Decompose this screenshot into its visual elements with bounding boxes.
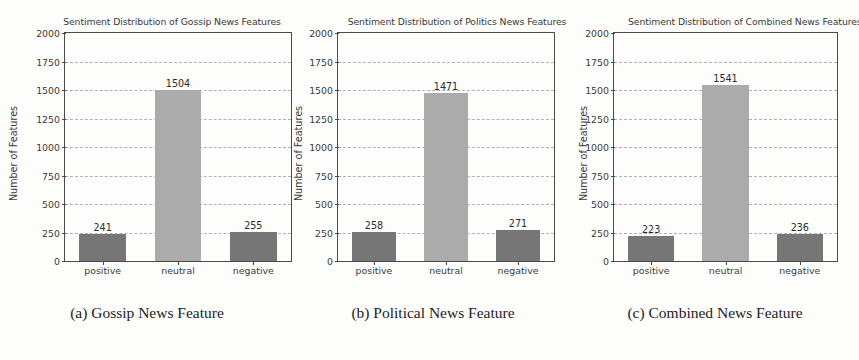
bar-value-label: 271 xyxy=(509,218,527,229)
plot-area: 025050075010001250150017502000258positiv… xyxy=(337,32,555,262)
y-tick-label: 1500 xyxy=(36,85,60,96)
x-tick-label-neutral: neutral xyxy=(709,265,743,276)
bar-negative: 271 xyxy=(496,230,541,261)
y-tick-mark xyxy=(611,176,615,177)
bar-value-label: 1504 xyxy=(166,78,190,89)
y-tick-mark xyxy=(335,62,339,63)
y-tick-label: 1500 xyxy=(309,85,333,96)
y-tick-mark xyxy=(62,33,66,34)
bar-neutral: 1541 xyxy=(702,85,748,261)
bar-neutral: 1504 xyxy=(155,90,202,261)
y-tick-label: 0 xyxy=(54,256,60,267)
bar-negative: 236 xyxy=(777,234,823,261)
x-tick-label-negative: negative xyxy=(779,265,820,276)
bar-value-label: 236 xyxy=(791,222,809,233)
figure-panel-row: Sentiment Distribution of Gossip News Fe… xyxy=(0,0,859,296)
y-tick-mark xyxy=(335,261,339,262)
chart-title: Sentiment Distribution of Gossip News Fe… xyxy=(58,16,286,27)
y-tick-label: 750 xyxy=(315,170,333,181)
y-tick-mark xyxy=(611,204,615,205)
bar-chart-politics: Sentiment Distribution of Politics News … xyxy=(285,0,571,296)
y-tick-label: 1250 xyxy=(36,113,60,124)
y-tick-mark xyxy=(611,233,615,234)
bar-positive: 258 xyxy=(352,232,397,261)
y-tick-mark xyxy=(335,204,339,205)
figure-panel-c: Sentiment Distribution of Combined News … xyxy=(570,0,856,296)
y-tick-label: 1000 xyxy=(36,142,60,153)
plot-area: 025050075010001250150017502000241positiv… xyxy=(64,32,292,262)
bar-neutral: 1471 xyxy=(424,93,469,261)
x-tick-label-negative: negative xyxy=(233,265,274,276)
y-tick-label: 0 xyxy=(603,256,609,267)
y-tick-mark xyxy=(62,90,66,91)
y-tick-mark xyxy=(611,62,615,63)
figure-captions: (a) Gossip News Feature (b) Political Ne… xyxy=(0,296,859,360)
x-tick-label-positive: positive xyxy=(356,265,393,276)
x-tick-label-positive: positive xyxy=(633,265,670,276)
gridline xyxy=(338,62,554,63)
y-tick-mark xyxy=(62,261,66,262)
figure-panel-b: Sentiment Distribution of Politics News … xyxy=(285,0,571,296)
caption-c: (c) Combined News Feature xyxy=(590,304,840,322)
y-tick-mark xyxy=(62,204,66,205)
y-tick-label: 1750 xyxy=(309,56,333,67)
plot-area: 025050075010001250150017502000223positiv… xyxy=(613,32,838,262)
bar-negative: 255 xyxy=(230,232,277,261)
bar-value-label: 255 xyxy=(244,220,262,231)
y-axis-label: Number of Features xyxy=(8,69,19,239)
y-tick-label: 1000 xyxy=(309,142,333,153)
y-tick-label: 1500 xyxy=(585,85,609,96)
bar-positive: 223 xyxy=(628,236,674,261)
x-tick-label-positive: positive xyxy=(84,265,121,276)
bar-value-label: 258 xyxy=(365,220,383,231)
bar-value-label: 223 xyxy=(642,224,660,235)
y-tick-label: 2000 xyxy=(585,28,609,39)
chart-title: Sentiment Distribution of Combined News … xyxy=(628,16,856,27)
y-tick-label: 500 xyxy=(42,199,60,210)
y-tick-label: 1250 xyxy=(309,113,333,124)
caption-b: (b) Political News Feature xyxy=(308,304,558,322)
y-tick-mark xyxy=(62,176,66,177)
bar-positive: 241 xyxy=(79,234,126,261)
bar-chart-combined: Sentiment Distribution of Combined News … xyxy=(570,0,856,296)
figure-panel-a: Sentiment Distribution of Gossip News Fe… xyxy=(0,0,286,296)
y-tick-label: 250 xyxy=(315,227,333,238)
bar-value-label: 1541 xyxy=(713,73,737,84)
y-axis-label: Number of Features xyxy=(293,69,304,239)
y-tick-label: 250 xyxy=(591,227,609,238)
y-tick-mark xyxy=(62,147,66,148)
y-tick-label: 1750 xyxy=(585,56,609,67)
y-tick-mark xyxy=(611,261,615,262)
bar-chart-gossip: Sentiment Distribution of Gossip News Fe… xyxy=(0,0,286,296)
y-tick-label: 0 xyxy=(327,256,333,267)
chart-title: Sentiment Distribution of Politics News … xyxy=(343,16,571,27)
y-tick-label: 1000 xyxy=(585,142,609,153)
y-tick-mark xyxy=(62,233,66,234)
gridline xyxy=(614,62,837,63)
y-tick-label: 750 xyxy=(42,170,60,181)
x-tick-label-negative: negative xyxy=(497,265,538,276)
y-tick-label: 500 xyxy=(591,199,609,210)
bar-value-label: 1471 xyxy=(434,81,458,92)
y-tick-label: 1750 xyxy=(36,56,60,67)
y-tick-label: 2000 xyxy=(309,28,333,39)
bar-value-label: 241 xyxy=(94,222,112,233)
y-tick-label: 250 xyxy=(42,227,60,238)
y-tick-mark xyxy=(62,119,66,120)
y-tick-mark xyxy=(335,119,339,120)
y-tick-mark xyxy=(335,233,339,234)
x-tick-label-neutral: neutral xyxy=(161,265,195,276)
y-tick-mark xyxy=(335,147,339,148)
y-tick-mark xyxy=(335,33,339,34)
y-tick-mark xyxy=(611,119,615,120)
caption-a: (a) Gossip News Feature xyxy=(22,304,272,322)
y-tick-label: 500 xyxy=(315,199,333,210)
y-tick-label: 1250 xyxy=(585,113,609,124)
y-tick-mark xyxy=(335,90,339,91)
x-tick-label-neutral: neutral xyxy=(429,265,463,276)
y-tick-mark xyxy=(335,176,339,177)
y-tick-mark xyxy=(62,62,66,63)
gridline xyxy=(65,62,291,63)
y-tick-mark xyxy=(611,147,615,148)
y-tick-label: 750 xyxy=(591,170,609,181)
